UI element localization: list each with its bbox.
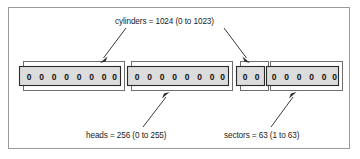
arrow-sectors	[271, 92, 297, 127]
arrow-heads	[143, 92, 170, 127]
bit-cell: 0	[102, 72, 107, 82]
bit-cell: 0	[322, 72, 327, 82]
bit-cell: 0	[255, 72, 260, 82]
bit-cell: 0	[332, 72, 337, 82]
bit-cell: 0	[112, 72, 117, 82]
bit-group-body	[267, 67, 339, 86]
bit-cell: 0	[39, 72, 44, 82]
bit-group-body	[237, 67, 265, 86]
arrow-cylinders-right	[224, 28, 250, 63]
bit-group-sector-bits: 0 0 0 0 0 0	[267, 62, 343, 91]
bit-group-cylinder-bits-high: 0 0 0 0 0 0 0 0	[20, 62, 125, 91]
bit-cell: 0	[89, 72, 94, 82]
annotation-label-sectors: sectors = 63 (1 to 63)	[224, 131, 299, 141]
bit-cell: 0	[135, 72, 140, 82]
bit-cell: 0	[272, 72, 277, 82]
bit-cell: 0	[284, 72, 289, 82]
bit-cell: 0	[77, 72, 82, 82]
bit-group-head-bits: 0 0 0 0 0 0 0 0	[128, 62, 233, 91]
bit-cell: 0	[64, 72, 69, 82]
figure-container: 0 0 0 0 0 0 0 0 0 0 0 0 0 0 0 0 0 0	[0, 0, 360, 159]
bit-cell: 0	[160, 72, 165, 82]
bit-cell: 0	[197, 72, 202, 82]
arrow-cylinders-left	[100, 28, 126, 63]
annotation-label-cylinders: cylinders = 1024 (0 to 1023)	[115, 17, 214, 27]
annotation-label-heads: heads = 256 (0 to 255)	[86, 131, 166, 141]
bit-cell: 0	[243, 72, 248, 82]
bit-cell: 0	[220, 72, 225, 82]
bit-cell: 0	[309, 72, 314, 82]
bit-cell: 0	[147, 72, 152, 82]
bit-cell: 0	[172, 72, 177, 82]
bit-cell: 0	[52, 72, 57, 82]
bit-group-cylinder-bits-low: 0 0	[237, 62, 269, 91]
bit-cell: 0	[297, 72, 302, 82]
bit-cell: 0	[27, 72, 32, 82]
bit-cell: 0	[210, 72, 215, 82]
bit-cell: 0	[185, 72, 190, 82]
